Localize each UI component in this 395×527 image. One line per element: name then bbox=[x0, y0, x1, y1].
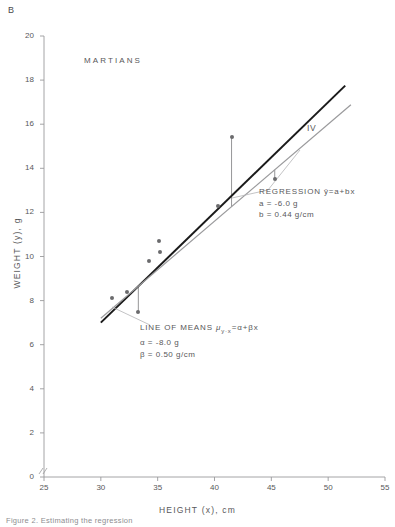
y-tick-label: 2 bbox=[12, 428, 34, 437]
data-point bbox=[136, 310, 140, 314]
regression-b: b = 0.44 g/cm bbox=[259, 209, 355, 221]
y-tick-label: 6 bbox=[12, 340, 34, 349]
y-tick-label: 18 bbox=[12, 75, 34, 84]
data-point bbox=[157, 239, 161, 243]
regression-title: REGRESSION bbox=[259, 187, 321, 196]
regression-formula: ŷ=a+bx bbox=[324, 187, 355, 196]
data-point bbox=[147, 259, 151, 263]
y-tick-label: 20 bbox=[12, 31, 34, 40]
x-axis-title: HEIGHT (x), cm bbox=[0, 505, 395, 515]
scatter-plot-canvas bbox=[0, 0, 395, 527]
data-point bbox=[216, 204, 220, 208]
data-point bbox=[125, 290, 129, 294]
data-point bbox=[158, 250, 162, 254]
line-of-means-alpha: α = -8.0 g bbox=[140, 337, 259, 349]
line-of-means-annotation: LINE OF MEANS μy·x=α+βx α = -8.0 g β = 0… bbox=[140, 322, 259, 360]
x-tick-label: 30 bbox=[86, 483, 116, 492]
line-of-means-title: LINE OF MEANS bbox=[140, 323, 213, 332]
regression-annotation: REGRESSION ŷ=a+bx a = -6.0 g b = 0.44 g/… bbox=[259, 186, 355, 221]
figure-panel: B MARTIANS IV 02468101214161820 25303540… bbox=[0, 0, 395, 527]
x-tick-label: 50 bbox=[313, 483, 343, 492]
y-tick-label: 4 bbox=[12, 384, 34, 393]
x-tick-label: 45 bbox=[256, 483, 286, 492]
regression-a: a = -6.0 g bbox=[259, 198, 355, 210]
x-tick-label: 55 bbox=[370, 483, 395, 492]
line-of-means-formula: μy·x=α+βx bbox=[216, 323, 259, 332]
figure-caption: Figure 2. Estimating the regression bbox=[6, 516, 133, 525]
y-tick-label: 16 bbox=[12, 119, 34, 128]
y-tick-label: 0 bbox=[12, 472, 34, 481]
line-of-means-beta: β = 0.50 g/cm bbox=[140, 349, 259, 361]
y-axis-title: WEIGHT (y), g bbox=[12, 198, 22, 308]
x-tick-label: 40 bbox=[200, 483, 230, 492]
x-tick-label: 25 bbox=[29, 483, 59, 492]
x-tick-label: 35 bbox=[143, 483, 173, 492]
y-tick-label: 14 bbox=[12, 163, 34, 172]
